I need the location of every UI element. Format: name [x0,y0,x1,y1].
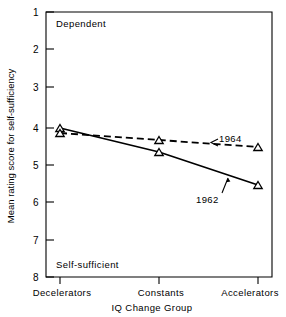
x-category-label-decelerators: Decelerators [33,287,92,298]
y-tick-label-8: 8 [33,272,39,283]
y-axis-title: Mean rating score for self-sufficiency [5,68,16,223]
x-axis-title: IQ Change Group [112,302,193,313]
annotation-1962-label: 1962 [196,194,219,205]
y-tick-label-4: 4 [33,123,39,134]
y-tick-label-5: 5 [33,160,39,171]
bottom-pole-label: Self-sufficient [56,259,119,270]
chart-figure: 1 2 3 4 5 6 7 8 Decelerators Constants A… [0,0,286,317]
y-tick-label-6: 6 [33,197,39,208]
y-tick-label-2: 2 [33,44,39,55]
chart-background [0,0,286,317]
x-category-label-accelerators: Accelerators [221,287,279,298]
y-tick-label-3: 3 [33,82,39,93]
y-tick-label-1: 1 [33,7,39,18]
top-pole-label: Dependent [56,18,106,29]
annotation-1964-label: 1964 [219,133,242,144]
line-chart: 1 2 3 4 5 6 7 8 Decelerators Constants A… [0,0,286,317]
x-category-label-constants: Constants [138,287,184,298]
y-tick-label-7: 7 [33,235,39,246]
